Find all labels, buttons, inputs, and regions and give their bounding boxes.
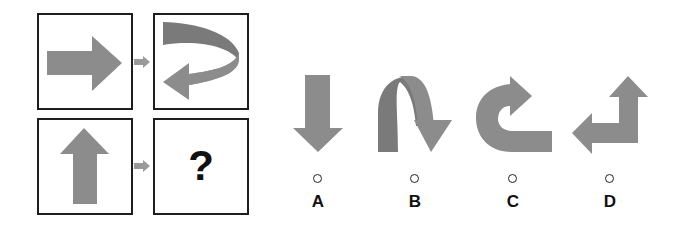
option-d-label[interactable]: D (595, 192, 625, 212)
option-c-u-turn-arrow-icon (474, 74, 556, 156)
connector-arrow-icon (134, 160, 152, 172)
option-a-arrow-down-icon (290, 74, 350, 154)
curled-arrow-icon (153, 13, 249, 110)
connector-arrow-icon (134, 56, 152, 68)
option-c-label[interactable]: C (498, 192, 528, 212)
arrow-up-icon (37, 118, 133, 215)
grid-cell-bottom-left (37, 118, 133, 215)
grid-cell-bottom-right: ? (153, 118, 249, 215)
option-a-radio[interactable] (313, 174, 322, 183)
option-d-radio[interactable] (605, 174, 614, 183)
option-c-radio[interactable] (508, 174, 517, 183)
grid-cell-top-right (153, 13, 249, 110)
option-b-label[interactable]: B (400, 192, 430, 212)
grid-cell-top-left (37, 13, 133, 110)
arrow-right-icon (37, 13, 133, 110)
option-d-elbow-arrow-icon (570, 74, 652, 156)
question-mark: ? (155, 142, 247, 190)
option-b-radio[interactable] (410, 174, 419, 183)
option-a-label[interactable]: A (303, 192, 333, 212)
option-b-arch-arrow-icon (376, 74, 456, 154)
